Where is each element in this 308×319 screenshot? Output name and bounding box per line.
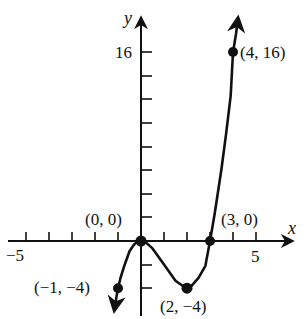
point-label-4-16: (4, 16) xyxy=(240,43,285,62)
tick-label-neg5: −5 xyxy=(6,246,24,265)
point-4-16 xyxy=(228,47,238,57)
y-ticks xyxy=(141,52,152,288)
tick-label-16: 16 xyxy=(115,43,132,62)
tick-label-5: 5 xyxy=(251,247,260,266)
point-2-neg4 xyxy=(182,283,193,294)
point-label-neg1-neg4: (−1, −4) xyxy=(34,278,90,297)
point-label-origin: (0, 0) xyxy=(85,210,122,229)
point-label-2-neg4: (2, −4) xyxy=(160,297,206,316)
y-axis-label: y xyxy=(122,8,132,28)
point-neg1-neg4 xyxy=(113,283,123,293)
key-points xyxy=(113,47,238,294)
function-curve xyxy=(114,18,238,310)
point-label-3-0: (3, 0) xyxy=(221,210,258,229)
point-origin xyxy=(136,236,147,247)
point-3-0 xyxy=(205,236,215,246)
x-axis-label: x xyxy=(287,218,296,238)
graph-canvas: y x 16 −5 5 (4, 16) (0, 0) (3, 0) (−1, −… xyxy=(0,0,308,319)
